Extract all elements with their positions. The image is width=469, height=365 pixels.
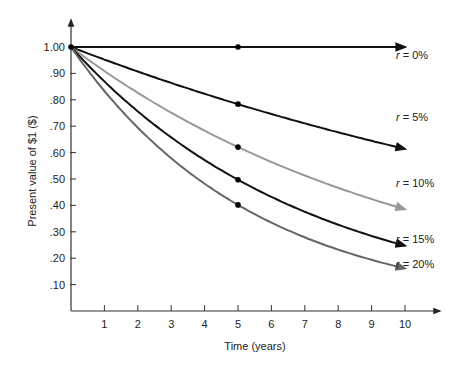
data-point-marker — [235, 101, 241, 107]
origin-marker — [68, 44, 74, 50]
y-tick-label: .50 — [50, 173, 65, 185]
y-tick-label: .20 — [50, 252, 65, 264]
x-tick-label: 8 — [335, 318, 341, 330]
series-labels: r = 0%r = 5%r = 10%r = 15%r = 20% — [396, 49, 434, 270]
x-tick-label: 1 — [101, 318, 107, 330]
y-tick-label: 1.00 — [44, 41, 65, 53]
series-label: r = 20% — [396, 258, 434, 270]
x-tick-label: 4 — [202, 318, 208, 330]
y-tick-label: .40 — [50, 199, 65, 211]
x-tick-label: 9 — [369, 318, 375, 330]
y-tick-label: .90 — [50, 67, 65, 79]
series-lines — [68, 44, 405, 268]
series-label: r = 0% — [396, 49, 428, 61]
x-tick-label: 6 — [268, 318, 274, 330]
data-point-marker — [235, 177, 241, 183]
series-line — [71, 47, 405, 268]
x-tick-label: 3 — [168, 318, 174, 330]
series-label: r = 15% — [396, 233, 434, 245]
y-axis-title: Present value of $1 ($) — [26, 115, 38, 226]
y-tick-label: .10 — [50, 279, 65, 291]
axes — [71, 20, 440, 311]
x-ticks: 12345678910 — [101, 305, 411, 330]
y-tick-label: .30 — [50, 226, 65, 238]
data-point-marker — [235, 44, 241, 50]
x-tick-label: 7 — [302, 318, 308, 330]
y-tick-label: .70 — [50, 120, 65, 132]
data-point-marker — [235, 202, 241, 208]
data-point-marker — [235, 144, 241, 150]
series-label: r = 5% — [396, 111, 428, 123]
x-axis-title: Time (years) — [224, 340, 285, 352]
x-tick-label: 2 — [135, 318, 141, 330]
present-value-chart: 1.00.90.80.70.60.50.40.30.20.10 12345678… — [0, 0, 469, 365]
y-tick-label: .80 — [50, 94, 65, 106]
series-label: r = 10% — [396, 177, 434, 189]
x-tick-label: 5 — [235, 318, 241, 330]
series-line — [71, 47, 405, 209]
y-tick-label: .60 — [50, 147, 65, 159]
x-tick-label: 10 — [399, 318, 411, 330]
